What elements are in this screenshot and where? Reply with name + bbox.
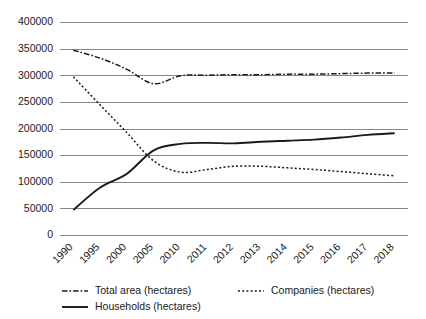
legend-group: Total area (hectares)Companies (hectares… [62, 284, 374, 312]
x-axis-tick-label: 2010 [157, 240, 182, 265]
series-line [73, 50, 394, 84]
series-group [73, 50, 394, 210]
x-axis-tick-label: 2000 [103, 240, 128, 265]
chart-container: 0500001000001500002000002500003000003500… [0, 0, 426, 319]
y-axis-labels-group: 0500001000001500002000002500003000003500… [18, 15, 53, 240]
y-axis-tick-label: 150000 [18, 148, 53, 160]
y-axis-tick-label: 50000 [24, 202, 53, 214]
x-axis-tick-label: 2014 [264, 240, 289, 265]
x-axis-tick-label: 1990 [50, 240, 75, 265]
legend-label: Households (hectares) [95, 300, 201, 312]
x-axis-tick-label: 2017 [344, 240, 369, 265]
legend-label: Total area (hectares) [95, 284, 191, 296]
gridlines-group [60, 23, 408, 236]
y-axis-tick-label: 350000 [18, 42, 53, 54]
x-axis-labels-group: 1990199520002005201020112012201320142015… [50, 240, 396, 265]
x-axis-tick-label: 2013 [237, 240, 262, 265]
x-axis-tick-label: 2011 [184, 240, 209, 265]
y-axis-tick-label: 0 [47, 228, 53, 240]
x-axis-tick-label: 2005 [130, 240, 155, 265]
x-axis-tick-label: 2018 [371, 240, 396, 265]
legend-label: Companies (hectares) [271, 284, 374, 296]
x-axis-tick-label: 2016 [317, 240, 342, 265]
y-axis-tick-label: 100000 [18, 175, 53, 187]
y-axis-tick-label: 200000 [18, 122, 53, 134]
y-axis-tick-label: 400000 [18, 15, 53, 27]
y-axis-tick-label: 300000 [18, 69, 53, 81]
y-axis-tick-label: 250000 [18, 95, 53, 107]
x-axis-tick-label: 2012 [210, 240, 235, 265]
x-axis-tick-label: 2015 [291, 240, 316, 265]
series-line [73, 77, 394, 176]
x-axis-tick-label: 1995 [77, 240, 102, 265]
line-chart: 0500001000001500002000002500003000003500… [0, 0, 426, 319]
